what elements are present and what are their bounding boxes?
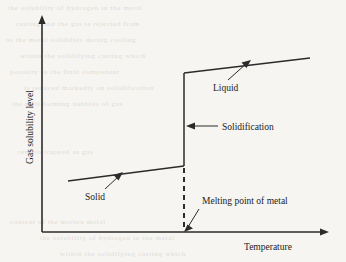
liquid-label: Liquid xyxy=(213,83,239,93)
x-axis-arrowhead xyxy=(320,228,329,235)
melting-point-leader-line xyxy=(188,209,199,227)
melting-point-annotation: Melting point of metal xyxy=(184,196,288,232)
solidification-label: Solidification xyxy=(222,122,274,132)
solubility-chart: Liquid Solidification Solid Melting poin… xyxy=(0,0,346,262)
figure-container: the solubility of hydrogen in the metal … xyxy=(0,0,346,262)
solid-phase-line xyxy=(68,166,184,181)
y-axis-title: Gas solubility level xyxy=(25,90,35,164)
y-axis-arrowhead xyxy=(38,15,45,24)
melting-point-arrowhead xyxy=(184,225,193,233)
liquid-leader-line xyxy=(228,63,247,80)
solid-label: Solid xyxy=(85,192,105,202)
liquid-annotation: Liquid xyxy=(213,60,251,93)
solidification-annotation: Solidification xyxy=(186,122,274,132)
melting-point-label: Melting point of metal xyxy=(202,196,288,206)
x-axis-title: Temperature xyxy=(244,242,292,252)
axis-titles-group: Gas solubility level Temperature xyxy=(25,90,292,252)
solidification-arrowhead xyxy=(186,123,195,130)
